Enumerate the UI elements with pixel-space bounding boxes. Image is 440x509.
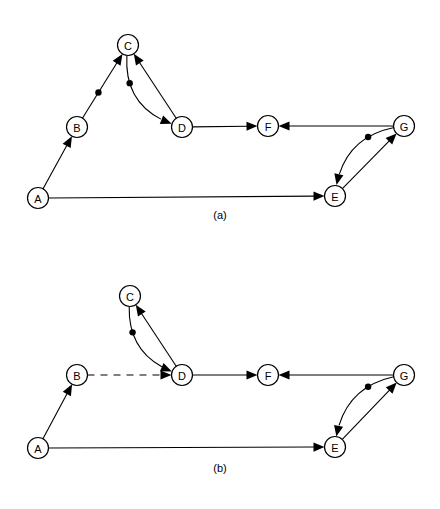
graph-figure-svg: ABCDFEG(a) ABCDFEG(b) bbox=[0, 0, 440, 509]
edge-a-D-to-F[interactable] bbox=[192, 122, 257, 131]
node-b-E-label: E bbox=[331, 442, 338, 454]
edge-a-D-to-C-line bbox=[139, 62, 176, 118]
node-a-E[interactable]: E bbox=[325, 186, 346, 207]
panel-a: ABCDFEG(a) bbox=[28, 35, 415, 222]
edge-b-A-to-E-line bbox=[48, 447, 314, 448]
edge-b-E-to-G[interactable] bbox=[342, 383, 396, 440]
node-b-B[interactable]: B bbox=[67, 365, 88, 386]
edge-a-A-to-E[interactable] bbox=[48, 192, 324, 201]
edge-a-E-to-G-line bbox=[342, 141, 389, 189]
node-b-D[interactable]: D bbox=[172, 365, 193, 386]
edge-b-D-to-F[interactable] bbox=[193, 370, 258, 379]
edge-a-G-to-F-arrowhead-icon bbox=[279, 121, 290, 130]
node-a-G[interactable]: G bbox=[394, 116, 415, 137]
edge-b-A-to-B-line bbox=[43, 393, 67, 439]
edge-a-B-to-C[interactable] bbox=[83, 54, 123, 118]
node-a-B-label: B bbox=[73, 122, 80, 134]
panel-b-nodes: ABCDFEG bbox=[28, 286, 415, 459]
edge-b-D-to-C-arrowhead-icon bbox=[136, 305, 146, 317]
panel-a-nodes: ABCDFEG bbox=[28, 35, 415, 209]
node-b-G-label: G bbox=[400, 370, 409, 382]
node-a-D[interactable]: D bbox=[172, 117, 193, 138]
node-a-A[interactable]: A bbox=[28, 188, 49, 209]
edge-a-D-to-F-arrowhead-icon bbox=[246, 122, 257, 131]
edge-a-D-to-F-line bbox=[192, 126, 247, 127]
node-a-F-label: F bbox=[265, 121, 272, 133]
edge-a-G-to-E[interactable] bbox=[334, 128, 393, 185]
caption-b: (b) bbox=[213, 462, 226, 474]
edge-b-G-to-F-arrowhead-icon bbox=[279, 370, 290, 379]
edge-a-E-to-G[interactable] bbox=[342, 133, 396, 188]
edge-b-B-to-D[interactable] bbox=[88, 370, 172, 379]
node-b-A[interactable]: A bbox=[28, 438, 49, 459]
node-b-C[interactable]: C bbox=[120, 286, 141, 307]
edge-a-C-to-D-dot-marker bbox=[126, 80, 132, 86]
edge-b-A-to-B-arrowhead-icon bbox=[63, 384, 72, 396]
edge-a-G-to-E-dot-marker bbox=[365, 134, 371, 140]
edge-b-C-to-D[interactable] bbox=[129, 307, 172, 372]
edge-b-A-to-E[interactable] bbox=[48, 442, 324, 451]
edge-b-E-to-G-line bbox=[342, 390, 389, 440]
edge-a-A-to-E-arrowhead-icon bbox=[313, 192, 324, 201]
node-b-A-label: A bbox=[34, 443, 42, 455]
edge-b-D-to-C-line bbox=[141, 313, 176, 366]
edge-b-A-to-B[interactable] bbox=[43, 384, 72, 438]
node-a-F[interactable]: F bbox=[258, 116, 279, 137]
node-a-G-label: G bbox=[400, 121, 409, 133]
node-b-G[interactable]: G bbox=[394, 365, 415, 386]
edge-b-D-to-F-arrowhead-icon bbox=[247, 370, 258, 379]
edge-a-A-to-B-arrowhead-icon bbox=[63, 136, 72, 148]
edge-a-D-to-C[interactable] bbox=[134, 54, 176, 118]
edge-b-C-to-D-dot-marker bbox=[129, 329, 135, 335]
edge-b-G-to-E[interactable] bbox=[334, 377, 394, 437]
node-b-F-label: F bbox=[265, 370, 272, 382]
edge-b-D-to-C[interactable] bbox=[136, 305, 176, 366]
figure-root: ABCDFEG(a) ABCDFEG(b) bbox=[0, 0, 440, 509]
node-a-B[interactable]: B bbox=[67, 117, 88, 138]
edge-a-C-to-D-arrowhead-icon bbox=[160, 115, 172, 124]
node-a-D-label: D bbox=[178, 122, 186, 134]
node-a-C[interactable]: C bbox=[118, 35, 139, 56]
panel-b-edges bbox=[43, 305, 397, 452]
node-b-D-label: D bbox=[178, 370, 186, 382]
edge-a-B-to-C-arrowhead-icon bbox=[113, 54, 123, 66]
edge-a-A-to-E-line bbox=[48, 196, 314, 198]
edge-a-A-to-B[interactable] bbox=[43, 136, 72, 189]
node-b-E[interactable]: E bbox=[325, 437, 346, 458]
edge-b-B-to-D-arrowhead-icon bbox=[161, 370, 172, 379]
caption-a: (a) bbox=[213, 209, 226, 221]
node-a-E-label: E bbox=[331, 191, 338, 203]
edge-b-C-to-D-arrowhead-icon bbox=[160, 363, 172, 372]
node-a-A-label: A bbox=[34, 193, 42, 205]
node-b-C-label: C bbox=[126, 291, 134, 303]
edge-a-C-to-D[interactable] bbox=[126, 56, 171, 124]
panel-b: ABCDFEG(b) bbox=[28, 286, 415, 475]
edge-a-A-to-B-line bbox=[43, 145, 67, 189]
edge-a-D-to-C-arrowhead-icon bbox=[134, 54, 144, 66]
edge-a-G-to-E-arrowhead-icon bbox=[334, 173, 343, 185]
node-b-F[interactable]: F bbox=[258, 365, 279, 386]
node-b-B-label: B bbox=[73, 370, 80, 382]
edge-a-B-to-C-dot-marker bbox=[95, 89, 101, 95]
edge-b-G-to-E-arrowhead-icon bbox=[334, 425, 343, 437]
node-a-C-label: C bbox=[124, 40, 132, 52]
edge-a-G-to-F[interactable] bbox=[279, 121, 394, 130]
edge-b-A-to-E-arrowhead-icon bbox=[313, 442, 324, 451]
edge-b-G-to-E-dot-marker bbox=[365, 384, 371, 390]
edge-b-G-to-F[interactable] bbox=[279, 370, 394, 379]
panel-a-edges bbox=[43, 54, 397, 201]
